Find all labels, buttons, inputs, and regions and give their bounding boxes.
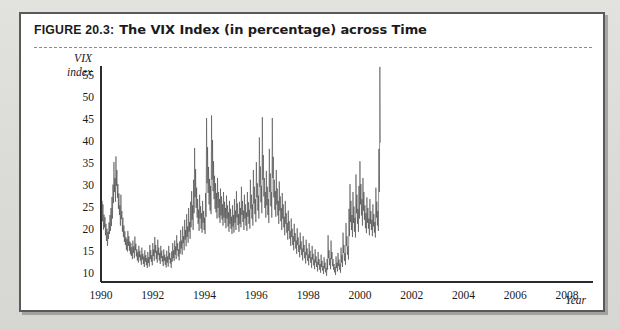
series-line-vix [101,67,380,276]
figure-header: FIGURE 20.3:The VIX Index (in percentage… [21,14,603,52]
x-tick-label: 1998 [297,289,320,301]
x-axis: 1990199219941996199820002002200420062008 [90,282,594,301]
figure-title: The VIX Index (in percentage) across Tim… [119,22,427,37]
x-tick-label: 2004 [452,289,475,301]
y-tick-label: 45 [83,113,95,125]
y-tick-label: 40 [83,135,95,147]
x-axis-title: Year [565,294,586,306]
figure-root: FIGURE 20.3:The VIX Index (in percentage… [0,0,620,329]
y-tick-label: 20 [83,223,95,235]
y-axis-title-line1: VIX [74,52,93,64]
x-tick-label: 2006 [504,289,527,301]
y-tick-label: 50 [83,91,95,103]
figure-number-label: FIGURE 20.3: [34,23,114,37]
x-tick-label: 2002 [400,289,423,301]
y-tick-label: 30 [83,179,95,191]
y-tick-label: 35 [83,157,95,169]
y-tick-label: 10 [83,267,95,279]
x-tick-label: 1994 [193,289,216,301]
y-tick-label: 25 [83,201,95,213]
vix-timeseries-chart: 10152025303540455055 1990199219941996199… [21,52,607,310]
y-axis-title-line2: index [67,66,93,78]
x-tick-label: 1992 [141,289,164,301]
chart-plot-area: 10152025303540455055 1990199219941996199… [21,52,607,310]
x-tick-label: 1996 [245,289,268,301]
y-tick-label: 15 [83,245,95,257]
caption-divider [34,47,592,48]
x-tick-label: 2000 [348,289,371,301]
y-axis: 10152025303540455055 [83,66,102,282]
figure-panel: FIGURE 20.3:The VIX Index (in percentage… [19,12,605,312]
series-group [101,67,380,276]
x-tick-label: 1990 [90,289,113,301]
figure-caption: FIGURE 20.3:The VIX Index (in percentage… [34,22,427,37]
